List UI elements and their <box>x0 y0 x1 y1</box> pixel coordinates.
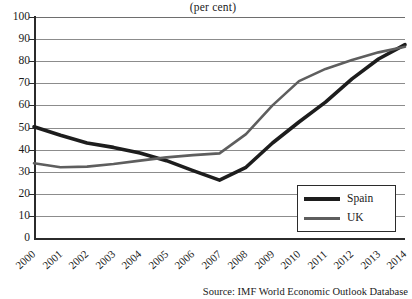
chart-legend: Spain UK <box>297 185 396 232</box>
x-axis-tick-2013: 2013 <box>358 248 382 271</box>
x-axis-tick-2012: 2012 <box>332 248 356 271</box>
gridline-90 <box>34 39 405 40</box>
legend-swatch-spain <box>304 197 340 201</box>
y-axis-tick-30: 30 <box>0 166 30 178</box>
y-axis-tick-50: 50 <box>0 122 30 134</box>
chart-title: (per cent) <box>0 1 412 13</box>
legend-label-spain: Spain <box>347 193 373 205</box>
y-axis-tick-10: 10 <box>0 210 30 222</box>
y-tickmark-30 <box>29 172 34 173</box>
x-axis-tick-2002: 2002 <box>67 248 91 271</box>
y-axis-tick-40: 40 <box>0 144 30 156</box>
gridline-50 <box>34 128 405 129</box>
gridline-80 <box>34 61 405 62</box>
x-axis-tick-2003: 2003 <box>93 248 117 271</box>
x-axis-tick-2001: 2001 <box>40 248 64 271</box>
y-tickmark-40 <box>29 150 34 151</box>
y-axis-tick-0: 0 <box>0 232 30 244</box>
gridline-60 <box>34 105 405 106</box>
legend-item-uk: UK <box>304 210 364 226</box>
legend-label-uk: UK <box>347 212 364 224</box>
y-tickmark-70 <box>29 83 34 84</box>
x-axis-tick-2010: 2010 <box>279 248 303 271</box>
y-axis-tick-80: 80 <box>0 55 30 67</box>
y-tickmark-20 <box>29 194 34 195</box>
x-axis-tick-2009: 2009 <box>252 248 276 271</box>
x-axis-tick-2005: 2005 <box>146 248 170 271</box>
x-axis-tick-2006: 2006 <box>173 248 197 271</box>
y-tickmark-90 <box>29 39 34 40</box>
x-axis-tick-2011: 2011 <box>305 249 328 272</box>
source-note: Source: IMF World Economic Outlook Datab… <box>203 286 408 297</box>
y-tickmark-50 <box>29 128 34 129</box>
gridline-100 <box>34 17 405 18</box>
y-tickmark-80 <box>29 61 34 62</box>
y-tickmark-100 <box>29 17 34 18</box>
gridline-70 <box>34 83 405 84</box>
y-axis-tick-90: 90 <box>0 33 30 45</box>
y-axis-tick-20: 20 <box>0 188 30 200</box>
y-axis-line <box>34 16 36 240</box>
y-axis-tick-70: 70 <box>0 78 30 90</box>
y-tickmark-60 <box>29 105 34 106</box>
gridline-30 <box>34 172 405 173</box>
chart-figure: (per cent) Spain UK Source: IMF World Ec… <box>0 0 412 299</box>
x-axis-tick-2008: 2008 <box>226 248 250 271</box>
x-axis-tick-2014: 2014 <box>385 248 409 271</box>
y-tickmark-10 <box>29 216 34 217</box>
x-axis-tick-2007: 2007 <box>199 248 223 271</box>
gridline-40 <box>34 150 405 151</box>
y-axis-tick-60: 60 <box>0 100 30 112</box>
x-axis-tick-2000: 2000 <box>14 248 38 271</box>
y-axis-tick-100: 100 <box>0 11 30 23</box>
x-axis-tick-2004: 2004 <box>120 248 144 271</box>
gridline-0 <box>34 238 405 240</box>
legend-swatch-uk <box>304 217 340 220</box>
legend-item-spain: Spain <box>304 191 373 207</box>
